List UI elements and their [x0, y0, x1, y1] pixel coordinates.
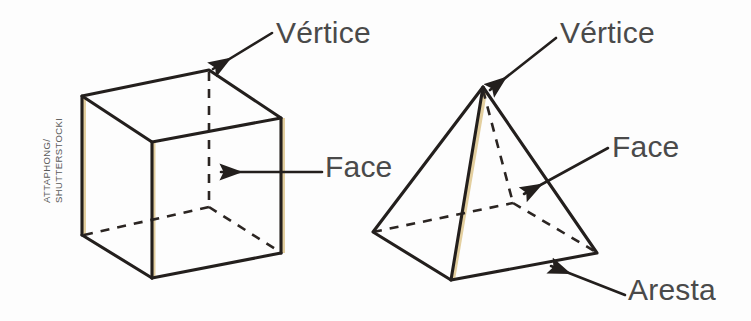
leader-aresta-pyramid: [551, 266, 625, 295]
cube-shape: [82, 70, 283, 278]
label-face-pyramid: Face: [612, 132, 680, 162]
geometric-solids-figure: Vértice Face Vértice Face Aresta ATTAPHO…: [0, 0, 751, 321]
pyramid-shape: [373, 87, 597, 280]
leader-vertice-cube: [213, 33, 272, 69]
cube-visible-edges: [82, 70, 281, 278]
image-credit: ATTAPHONG/ SHUTTERSTOCKI: [41, 53, 65, 203]
pyramid-hidden-edges: [373, 90, 596, 252]
label-vertice-pyramid: Vértice: [560, 18, 655, 48]
label-vertice-cube: Vértice: [276, 18, 371, 48]
leader-vertice-pyramid: [490, 38, 556, 90]
label-face-cube: Face: [325, 152, 393, 182]
leader-face-pyramid: [524, 148, 608, 194]
pyramid-visible-edges: [373, 87, 597, 280]
label-aresta-pyramid: Aresta: [628, 275, 716, 305]
